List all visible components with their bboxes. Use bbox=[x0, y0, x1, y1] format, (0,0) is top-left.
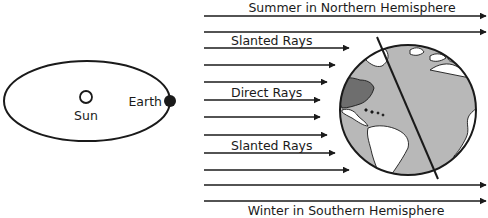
lower-slanted-rays-label: Slanted Rays bbox=[231, 138, 312, 153]
summer-northern-title: Summer in Northern Hemisphere bbox=[248, 0, 456, 15]
earth-label: Earth bbox=[128, 94, 162, 109]
island bbox=[377, 112, 379, 114]
sun-label: Sun bbox=[74, 108, 98, 123]
island bbox=[371, 111, 373, 113]
seasons-diagram: Sun Earth Summer in Northern Hemisphere … bbox=[0, 0, 488, 218]
upper-slanted-rays-label: Slanted Rays bbox=[231, 33, 312, 48]
winter-southern-title: Winter in Southern Hemisphere bbox=[248, 203, 445, 218]
island bbox=[382, 114, 384, 116]
island bbox=[365, 109, 367, 111]
earth-dot-icon bbox=[164, 95, 176, 107]
orbit-group: Sun Earth bbox=[4, 61, 176, 141]
direct-rays-label: Direct Rays bbox=[231, 85, 302, 100]
sun-icon bbox=[80, 91, 92, 103]
earth-globe bbox=[338, 37, 481, 179]
